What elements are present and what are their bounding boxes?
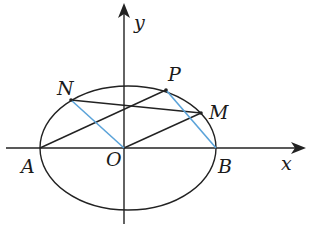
point-M	[199, 111, 203, 115]
label-x-axis: x	[281, 152, 292, 174]
segment-NM	[71, 100, 201, 113]
ellipse-diagram: y x O A B N P M	[0, 0, 311, 239]
label-y-axis: y	[133, 11, 145, 33]
label-B: B	[217, 155, 232, 177]
label-A: A	[19, 155, 35, 177]
label-M: M	[208, 101, 229, 123]
point-P	[164, 88, 168, 92]
segment-NO	[71, 100, 124, 148]
label-N: N	[56, 77, 75, 99]
label-O: O	[106, 148, 122, 170]
label-P: P	[167, 63, 182, 85]
